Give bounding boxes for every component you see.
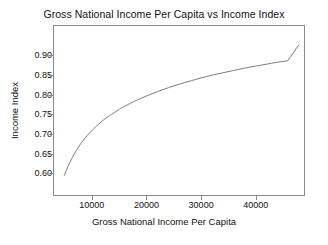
chart-title: Gross National Income Per Capita vs Inco… xyxy=(0,8,328,20)
x-tick-label: 30000 xyxy=(189,200,214,210)
x-tick-mark xyxy=(146,196,147,200)
x-tick-mark xyxy=(92,196,93,200)
y-axis-label: Income Index xyxy=(8,25,22,196)
x-axis-label: Gross National Income Per Capita xyxy=(0,216,328,228)
series-line-income-index xyxy=(64,45,298,175)
x-tick-mark xyxy=(201,196,202,200)
chart-figure: Gross National Income Per Capita vs Inco… xyxy=(0,0,328,245)
x-tick-mark xyxy=(256,196,257,200)
x-tick-label: 20000 xyxy=(134,200,159,210)
x-tick-label: 40000 xyxy=(243,200,268,210)
data-line-svg xyxy=(54,26,304,195)
plot-area xyxy=(53,25,305,196)
x-tick-label: 10000 xyxy=(79,200,104,210)
